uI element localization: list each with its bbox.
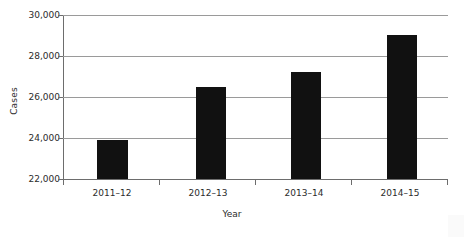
x-tickmark-3 <box>351 180 352 185</box>
x-tickmark-start <box>63 180 64 185</box>
x-tickmark-2 <box>255 180 256 185</box>
x-tick-label-2014-15: 2014–15 <box>355 188 445 198</box>
x-tick-label-2012-13: 2012–13 <box>163 188 253 198</box>
y-axis-tick-labels: 30,000 28,000 26,000 24,000 22,000 <box>12 0 60 237</box>
y-tick-label-24000: 24,000 <box>14 134 60 143</box>
bar-2012-13 <box>196 87 226 179</box>
x-axis-title: Year <box>0 209 464 219</box>
y-tick-label-26000: 26,000 <box>14 93 60 102</box>
x-tickmark-end <box>447 180 448 185</box>
x-tick-label-2011-12: 2011–12 <box>67 188 157 198</box>
bar-2011-12 <box>97 140 128 179</box>
page-edge-artifact <box>448 215 464 237</box>
y-tick-label-22000: 22,000 <box>14 175 60 184</box>
bar-2013-14 <box>291 72 321 179</box>
x-tickmark-1 <box>159 180 160 185</box>
y-tick-label-28000: 28,000 <box>14 52 60 61</box>
plot-area <box>63 15 448 179</box>
bar-chart-figure: Cases 30,000 28,000 26,000 24,000 22,000… <box>0 0 464 237</box>
bar-2014-15 <box>387 35 417 179</box>
gridline-30000 <box>63 15 448 16</box>
x-tick-label-2013-14: 2013–14 <box>259 188 349 198</box>
y-tick-label-30000: 30,000 <box>14 11 60 20</box>
